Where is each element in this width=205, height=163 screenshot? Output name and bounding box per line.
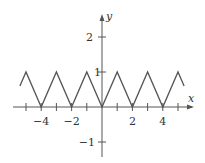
chart: −4 −2 2 4 2 1 −1 x y — [0, 0, 205, 163]
x-axis-arrow-icon — [187, 105, 194, 110]
y-axis-arrow-icon — [100, 14, 105, 21]
x-tick-label-4: 4 — [159, 115, 166, 128]
x-tick-label-neg4: −4 — [33, 115, 49, 128]
y-tick-label-neg1: −1 — [79, 136, 95, 149]
y-axis-label: y — [105, 10, 113, 23]
y-tick-label-2: 2 — [86, 31, 93, 44]
x-tick-label-2: 2 — [129, 115, 136, 128]
x-axis-label: x — [188, 92, 195, 105]
y-axis — [100, 14, 105, 157]
x-tick-label-neg2: −2 — [63, 115, 79, 128]
y-tick-label-1: 1 — [94, 66, 101, 79]
